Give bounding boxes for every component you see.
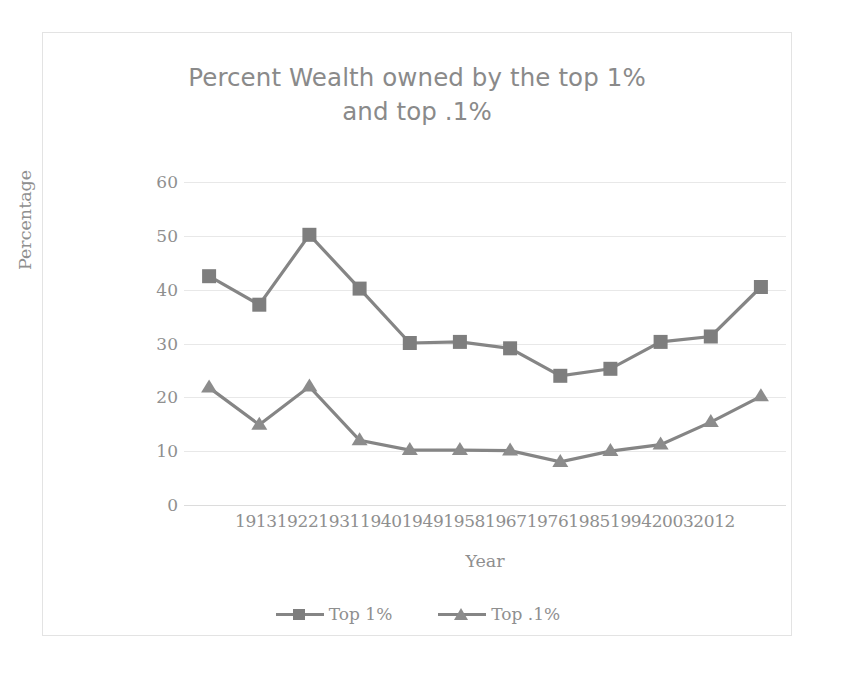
y-tick-40: 40	[132, 280, 178, 300]
x-tick-1967: 1967	[485, 511, 527, 531]
plot-area	[184, 182, 786, 505]
x-tick-2003: 2003	[652, 511, 694, 531]
series-line-1	[209, 387, 761, 462]
y-axis-title: Percentage	[15, 170, 35, 270]
x-tick-1931: 1931	[318, 511, 360, 531]
x-tick-1949: 1949	[402, 511, 444, 531]
data-point-top-1--1913	[202, 269, 216, 283]
y-tick-0: 0	[132, 495, 178, 515]
y-tick-60: 60	[132, 172, 178, 192]
legend-label-1: Top .1%	[491, 604, 560, 624]
legend-item-0[interactable]: Top 1%	[276, 604, 393, 624]
x-tick-1985: 1985	[568, 511, 610, 531]
legend-label-0: Top 1%	[329, 604, 393, 624]
x-axis-title: Year	[184, 551, 786, 571]
y-axis-tick-labels: 6050403020100	[128, 182, 178, 505]
data-point-top-1--1976	[553, 369, 567, 383]
data-point-top-1--2012	[754, 280, 768, 294]
legend-square-marker-icon	[276, 607, 324, 621]
x-tick-1976: 1976	[527, 511, 569, 531]
y-tick-30: 30	[132, 334, 178, 354]
y-tick-20: 20	[132, 387, 178, 407]
series-line-0	[209, 235, 761, 376]
series-plot	[184, 182, 786, 505]
x-tick-2012: 2012	[693, 511, 735, 531]
chart-title: Percent Wealth owned by the top 1% and t…	[43, 61, 791, 129]
chart-frame: Percent Wealth owned by the top 1% and t…	[42, 32, 792, 636]
gridline-0	[184, 505, 786, 506]
y-tick-10: 10	[132, 441, 178, 461]
x-tick-1940: 1940	[360, 511, 402, 531]
data-point-top-1--1913	[201, 380, 217, 393]
data-point-top-1--1922	[252, 298, 266, 312]
x-tick-1913: 1913	[235, 511, 277, 531]
data-point-top-1--1949	[403, 336, 417, 350]
data-point-top-1--1967	[503, 341, 517, 355]
data-point-top-1--1931	[302, 228, 316, 242]
x-tick-1958: 1958	[443, 511, 485, 531]
data-point-top-1--1931	[301, 379, 317, 392]
data-point-top-1--1985	[603, 362, 617, 376]
legend-triangle-marker-icon	[438, 607, 486, 621]
data-point-top-1--2003	[704, 330, 718, 344]
x-tick-1922: 1922	[277, 511, 319, 531]
x-tick-1994: 1994	[610, 511, 652, 531]
y-tick-50: 50	[132, 226, 178, 246]
data-point-top-1--1958	[453, 335, 467, 349]
legend-item-1[interactable]: Top .1%	[438, 604, 560, 624]
chart-legend: Top 1%Top .1%	[43, 604, 793, 624]
x-axis-tick-labels: 1913192219311940194919581967197619851994…	[184, 511, 786, 537]
data-point-top-1--1994	[654, 335, 668, 349]
data-point-top-1--2012	[753, 388, 769, 401]
data-point-top-1--1940	[353, 282, 367, 296]
